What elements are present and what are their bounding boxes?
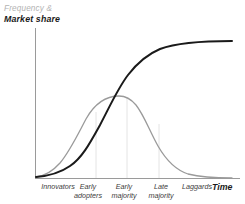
diffusion-of-innovation-chart: Frequency & Market share Innovators Earl… (0, 0, 245, 204)
segment-dividers (96, 97, 159, 178)
plot-area (0, 0, 245, 204)
x-axis-label-time: Time (212, 182, 232, 192)
frequency-bell-curve (36, 96, 232, 178)
